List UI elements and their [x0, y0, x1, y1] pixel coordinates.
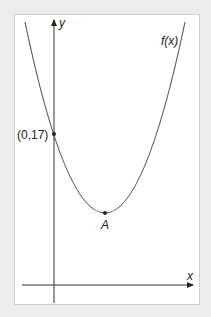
parabola-curve	[25, 22, 185, 213]
x-axis-label: x	[186, 269, 194, 283]
vertex-label: A	[100, 218, 109, 232]
y-intercept-point	[52, 132, 56, 136]
vertex-point	[103, 211, 107, 215]
function-label: f(x)	[161, 34, 178, 48]
intercept-label: (0,17)	[17, 128, 48, 142]
y-axis-label: y	[58, 16, 66, 30]
parabola-diagram: y x f(x) (0,17) A	[0, 0, 211, 317]
